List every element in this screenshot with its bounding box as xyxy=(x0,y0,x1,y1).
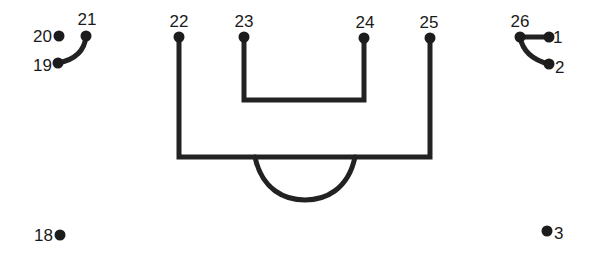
dot-marker xyxy=(53,58,64,69)
dot-number-label: 2 xyxy=(555,58,564,77)
dot-number-label: 23 xyxy=(235,12,254,31)
bottom-arc-line xyxy=(255,157,355,200)
dot-23: 23 xyxy=(235,12,254,43)
dot-number-label: 22 xyxy=(170,12,189,31)
connect-the-dots-canvas: 123181920212223242526 xyxy=(0,0,596,260)
dot-marker xyxy=(55,230,66,241)
dot-20: 20 xyxy=(33,27,64,46)
drawn-lines xyxy=(58,36,549,200)
dot-19: 19 xyxy=(33,56,63,75)
dot-marker xyxy=(359,33,370,44)
dot-22: 22 xyxy=(170,12,189,43)
dot-marker xyxy=(544,59,555,70)
dot-marker xyxy=(425,33,436,44)
dot-24: 24 xyxy=(356,13,375,44)
dot-3: 3 xyxy=(542,224,564,243)
dot-marker xyxy=(174,32,185,43)
dot-marker xyxy=(515,32,526,43)
dot-number-label: 25 xyxy=(420,13,439,32)
numbered-dots: 123181920212223242526 xyxy=(33,10,564,245)
dot-21: 21 xyxy=(78,10,97,42)
dot-number-label: 1 xyxy=(553,28,562,47)
dot-marker xyxy=(239,32,250,43)
dot-25: 25 xyxy=(420,13,439,44)
dot-marker xyxy=(81,31,92,42)
dot-number-label: 19 xyxy=(33,56,52,75)
dot-1: 1 xyxy=(544,28,563,47)
dot-number-label: 18 xyxy=(34,226,53,245)
dot-marker xyxy=(54,31,65,42)
dot-number-label: 21 xyxy=(78,10,97,29)
dot-number-label: 24 xyxy=(356,13,375,32)
dot-number-label: 20 xyxy=(33,27,52,46)
outer-box-line xyxy=(179,37,430,157)
inner-u-line xyxy=(244,37,364,100)
dot-18: 18 xyxy=(34,226,65,245)
dot-2: 2 xyxy=(544,58,565,77)
dot-number-label: 3 xyxy=(554,224,563,243)
curve-26-2-line xyxy=(520,37,549,64)
dot-marker xyxy=(542,226,553,237)
dot-number-label: 26 xyxy=(511,12,530,31)
